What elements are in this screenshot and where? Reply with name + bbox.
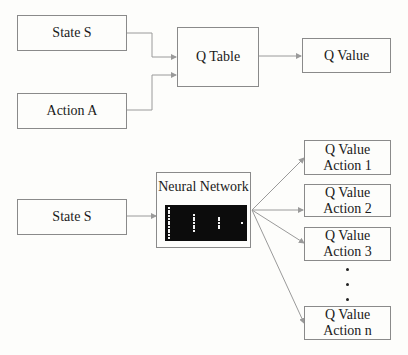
q-value-label: Q Value xyxy=(325,307,370,323)
arrow-action-to-qtable xyxy=(127,75,176,110)
q-table-label: Q Table xyxy=(196,49,240,65)
neuron-input xyxy=(168,215,170,217)
q-value-action-n-box: Q Value Action n xyxy=(304,306,391,340)
ellipsis-dot xyxy=(346,268,349,271)
neuron-input xyxy=(168,237,170,239)
neuron-input xyxy=(168,221,170,223)
arrow-state-to-qtable xyxy=(127,33,176,57)
q-value-box: Q Value xyxy=(302,38,391,73)
state-s-label: State S xyxy=(52,25,91,41)
action-a-box: Action A xyxy=(17,93,127,129)
neuron-input xyxy=(168,234,170,236)
action-label: Action n xyxy=(323,323,372,339)
q-value-label: Q Value xyxy=(324,48,369,64)
q-table-box: Q Table xyxy=(177,27,259,87)
ellipsis-dot xyxy=(346,298,349,301)
neuron-hidden-2 xyxy=(218,227,220,229)
action-label: Action 1 xyxy=(323,158,372,174)
neuron-hidden-1 xyxy=(193,230,195,232)
arrow-network-to-action-1 xyxy=(252,158,304,210)
neuron-input xyxy=(168,210,170,212)
neural-network-box: Neural Network xyxy=(156,172,251,248)
neuron-input xyxy=(168,207,170,209)
q-value-action-2-box: Q Value Action 2 xyxy=(304,184,391,217)
action-a-label: Action A xyxy=(47,103,98,119)
state-s-box-top: State S xyxy=(17,15,127,51)
neuron-input xyxy=(168,223,170,225)
q-value-label: Q Value xyxy=(325,228,370,244)
ellipsis-dot xyxy=(346,283,349,286)
action-label: Action 3 xyxy=(323,244,372,260)
state-s-box-bottom: State S xyxy=(17,199,127,235)
q-value-label: Q Value xyxy=(325,142,370,158)
neural-network-graphic xyxy=(165,205,247,241)
neuron-output xyxy=(241,222,243,224)
q-value-action-1-box: Q Value Action 1 xyxy=(304,140,391,175)
neuron-input xyxy=(168,212,170,214)
neuron-input xyxy=(168,226,170,228)
q-value-action-3-box: Q Value Action 3 xyxy=(304,227,391,261)
neuron-input xyxy=(168,231,170,233)
neuron-input xyxy=(168,229,170,231)
neural-network-title: Neural Network xyxy=(157,179,250,195)
state-s-label: State S xyxy=(52,209,91,225)
action-label: Action 2 xyxy=(323,201,372,217)
q-value-label: Q Value xyxy=(325,185,370,201)
neuron-input xyxy=(168,218,170,220)
